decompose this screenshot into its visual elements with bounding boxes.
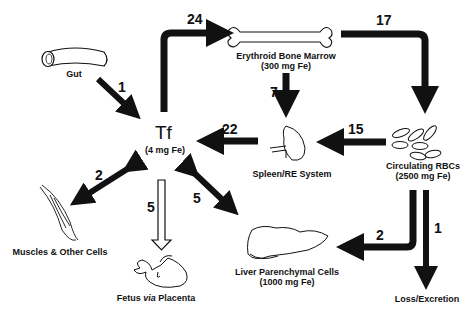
flux-rbcs-spleen: 15 (348, 121, 364, 137)
flux-tf-fetus: 5 (147, 199, 155, 215)
flux-marrow-rbcs: 17 (376, 12, 392, 28)
liver-label: Liver Parenchymal Cells (231, 267, 343, 277)
bone-marrow-sublabel: (300 mg Fe) (260, 61, 312, 71)
rbcs-sublabel: (2500 mg Fe) (388, 171, 458, 181)
rbc-icon (391, 124, 441, 161)
tf-label: Tf (155, 122, 172, 144)
arrow-gut-to-tf (98, 79, 132, 111)
gut-label: Gut (60, 69, 88, 79)
gut-icon (42, 48, 107, 67)
spleen-icon (270, 126, 305, 160)
flux-spleen-tf: 22 (222, 121, 238, 137)
fetus-label: Fetus via Placenta (116, 293, 196, 303)
flux-tf-liver: 5 (193, 190, 201, 206)
fetus-label-italic: via (143, 293, 156, 303)
muscle-icon (40, 185, 78, 240)
spleen-label: Spleen/RE System (249, 169, 335, 179)
fetus-label-pre: Fetus (117, 293, 144, 303)
rbcs-label: Circulating RBCs (378, 161, 468, 171)
flux-rbcs-liver: 2 (376, 227, 384, 243)
flux-gut-tf: 1 (118, 79, 126, 95)
bone-icon (228, 27, 332, 47)
flux-tf-muscles: 2 (95, 167, 103, 183)
liver-icon (248, 226, 329, 258)
muscles-label: Muscles & Other Cells (8, 247, 112, 257)
liver-sublabel: (1000 mg Fe) (258, 277, 316, 287)
flux-rbcs-loss: 1 (434, 220, 442, 236)
arrow-marrow-to-rbcs (341, 34, 425, 100)
tf-sublabel: (4 mg Fe) (142, 145, 188, 155)
arrow-tf-to-fetus (152, 180, 171, 250)
flux-tf-marrow: 24 (187, 11, 203, 27)
loss-label: Loss/Excretion (387, 294, 467, 304)
flux-marrow-spleen: 7 (270, 84, 278, 100)
fetus-label-post: Placenta (156, 293, 196, 303)
bone-marrow-label: Erythroid Bone Marrow (230, 51, 342, 61)
fetus-icon (134, 256, 187, 288)
arrow-tf-muscles (80, 166, 132, 199)
arrow-tf-to-marrow (164, 33, 220, 112)
